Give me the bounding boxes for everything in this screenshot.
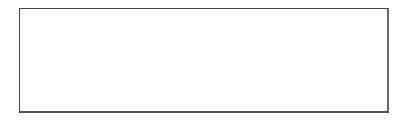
arrows-layer: [0, 0, 407, 120]
